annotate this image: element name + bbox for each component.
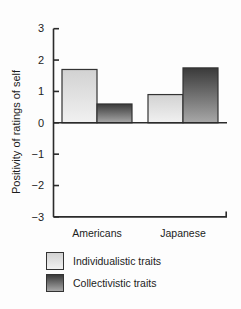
y-tick-label: 2 [38, 54, 44, 66]
bar-chart: AmericansJapanese3210−1−2−3Positivity of… [0, 0, 241, 246]
legend-label-collectivistic: Collectivistic traits [73, 277, 156, 289]
y-tick-label: 1 [38, 85, 44, 97]
y-tick-label: −3 [31, 211, 44, 223]
bar-japanese-collectivistic [183, 68, 218, 123]
y-axis-title: Positivity of ratings of self [10, 69, 22, 194]
individualistic-swatch [46, 252, 64, 270]
y-tick-label: −2 [31, 179, 44, 191]
y-tick-label: −1 [31, 148, 44, 160]
chart-legend: Individualistic traits Collectivistic tr… [46, 252, 161, 296]
legend-item-individualistic: Individualistic traits [46, 252, 161, 269]
bar-chart-figure: AmericansJapanese3210−1−2−3Positivity of… [0, 0, 241, 309]
y-tick-label: 0 [38, 117, 44, 129]
category-label-americans: Americans [72, 227, 122, 239]
bar-japanese-individualistic [148, 95, 183, 123]
collectivistic-swatch [46, 274, 64, 292]
bar-americans-individualistic [62, 69, 97, 122]
bar-americans-collectivistic [97, 104, 132, 123]
legend-label-individualistic: Individualistic traits [73, 255, 161, 267]
legend-item-collectivistic: Collectivistic traits [46, 274, 161, 291]
y-tick-label: 3 [38, 22, 44, 34]
category-label-japanese: Japanese [160, 227, 206, 239]
